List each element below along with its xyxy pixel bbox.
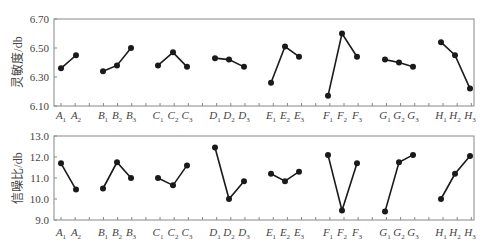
data-point [296,169,302,175]
x-category-label: C3 [182,109,193,124]
data-point [114,159,120,165]
data-point [226,196,232,202]
plot-frame [54,136,474,220]
data-point [467,153,473,159]
data-point [354,160,360,166]
x-category-label: H1 [434,109,447,124]
x-category-label: G3 [407,226,419,241]
data-point [241,64,247,70]
data-point [212,55,218,61]
data-point [73,187,79,193]
x-category-label: B1 [98,109,109,124]
x-category-label: D2 [222,109,235,124]
x-category-label: C2 [168,109,179,124]
data-point [100,186,106,192]
data-point [396,159,402,165]
x-category-label: D3 [237,226,250,241]
x-category-label: B2 [112,226,123,241]
data-point [73,52,79,58]
data-point [212,145,218,151]
x-category-label: B3 [126,109,137,124]
y-tick-label: 6.50 [30,42,50,54]
x-category-label: G2 [393,226,405,241]
y-tick-label: 13.0 [30,130,50,142]
data-point [58,65,64,71]
x-category-label: C3 [182,226,193,241]
x-category-label: A2 [70,109,82,124]
x-category-label: E1 [265,109,277,124]
data-point [58,160,64,166]
data-point [184,64,190,70]
data-point [170,49,176,55]
data-point [325,93,331,99]
x-category-label: G1 [379,226,391,241]
y-tick-label: 12.0 [30,151,50,163]
data-point [452,171,458,177]
data-point [410,64,416,70]
series-line-e [271,47,299,83]
x-category-label: D3 [237,109,250,124]
x-category-label: H1 [434,226,447,241]
x-category-label: H3 [463,226,476,241]
x-category-label: B1 [98,226,109,241]
y-tick-label: 9.0 [35,214,49,226]
data-point [268,80,274,86]
x-category-label: E2 [279,226,291,241]
snr-chart-panel: 9.010.011.012.013.0信噪比/dbA1A2B1B2B3C1C2C… [11,130,476,241]
x-category-label: C2 [168,226,179,241]
x-category-label: H2 [448,109,461,124]
data-point [325,152,331,158]
x-category-label: G1 [379,109,391,124]
y-tick-label: 6.10 [30,100,50,112]
x-category-label: B2 [112,109,123,124]
data-point [438,39,444,45]
data-point [339,208,345,214]
x-category-label: E1 [265,226,277,241]
series-line-h [441,42,470,88]
data-point [282,44,288,50]
x-category-label: D2 [222,226,235,241]
sensitivity-chart-panel: 6.106.306.506.70灵敏度/dbA1A2B1B2B3C1C2C3D1… [10,13,476,124]
x-category-label: A2 [70,226,82,241]
main-effects-chart: 6.106.306.506.70灵敏度/dbA1A2B1B2B3C1C2C3D1… [0,0,490,252]
data-point [128,45,134,51]
series-line-a [61,163,76,189]
x-category-label: D1 [208,226,221,241]
y-tick-label: 10.0 [30,193,50,205]
y-tick-label: 6.30 [30,71,50,83]
x-category-label: B3 [126,226,137,241]
x-category-label: H3 [463,109,476,124]
data-point [382,209,388,215]
data-point [296,54,302,60]
x-category-label: A1 [55,226,67,241]
x-category-label: E3 [293,226,305,241]
data-point [382,57,388,63]
data-point [184,162,190,168]
data-point [170,182,176,188]
data-point [155,62,161,68]
series-line-f [328,34,357,96]
data-point [241,178,247,184]
data-point [396,60,402,66]
series-line-h [441,156,470,199]
y-axis-label: 信噪比/db [11,152,25,203]
data-point [268,171,274,177]
y-tick-label: 11.0 [30,172,49,184]
y-tick-label: 6.70 [30,13,50,25]
data-point [452,52,458,58]
data-point [226,57,232,63]
data-point [100,68,106,74]
x-category-label: F3 [351,109,363,124]
x-category-label: F1 [322,226,334,241]
x-category-label: F3 [351,226,363,241]
x-category-label: F2 [336,109,348,124]
x-category-label: E3 [293,109,305,124]
x-category-label: G2 [393,109,405,124]
data-point [354,54,360,60]
x-category-label: E2 [279,109,291,124]
data-point [467,86,473,92]
series-line-f [328,155,357,211]
data-point [114,62,120,68]
x-category-label: C1 [153,109,164,124]
x-category-label: G3 [407,109,419,124]
